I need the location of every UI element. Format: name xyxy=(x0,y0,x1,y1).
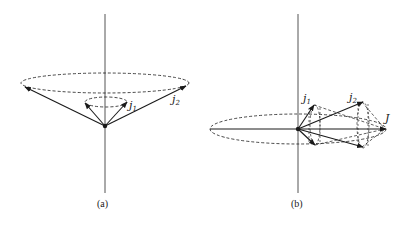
angular-momentum-diagram: j1 j2 (a) j1 j2 J (b) xyxy=(0,0,412,225)
j1-precession-b xyxy=(310,105,320,145)
caption-b: (b) xyxy=(291,198,303,210)
label-j1-b: j1 xyxy=(300,92,311,106)
label-j1-a: j1 xyxy=(126,99,137,113)
j2-precession-b xyxy=(357,102,369,148)
dash-parallelogram xyxy=(362,129,385,147)
j1-precession-cone-a xyxy=(85,97,127,107)
label-j2-a: j2 xyxy=(169,93,180,107)
label-J-b: J xyxy=(383,112,390,125)
label-j2-b: j2 xyxy=(346,91,357,105)
j1-vector-right-a xyxy=(105,102,127,126)
panel-a: j1 j2 (a) xyxy=(21,14,189,210)
caption-a: (a) xyxy=(97,198,108,210)
origin-dot-a xyxy=(103,124,107,128)
panel-b: j1 j2 J (b) xyxy=(210,14,390,210)
j2-vector-upper-b xyxy=(298,102,363,129)
origin-dot-b xyxy=(296,127,300,131)
dash-parallelogram xyxy=(314,105,385,129)
